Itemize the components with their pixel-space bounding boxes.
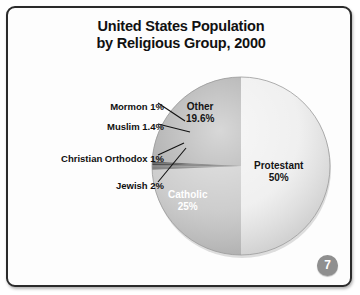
pie-label-other: Other 19.6%	[186, 101, 214, 125]
chart-title: United States Population by Religious Gr…	[8, 18, 354, 52]
pie-label-other-value: 19.6%	[186, 113, 214, 125]
pie-svg	[146, 71, 336, 261]
page-number-badge: 7	[317, 255, 338, 276]
callout-label-jewish: Jewish 2%	[60, 180, 164, 191]
pie-label-protestant-value: 50%	[254, 172, 303, 184]
pie-label-other-name: Other	[187, 101, 214, 112]
chart-title-line-1: United States Population	[98, 18, 265, 34]
callout-label-mormon: Mormon 1%	[72, 101, 164, 112]
chart-title-line-2: by Religious Group, 2000	[8, 35, 354, 52]
pie-label-protestant-name: Protestant	[254, 160, 303, 171]
callout-label-christian-orthodox: Christian Orthodox 1%	[16, 153, 164, 164]
figure-frame: United States Population by Religious Gr…	[6, 6, 352, 287]
pie-label-catholic-value: 25%	[168, 201, 207, 213]
pie-label-catholic: Catholic 25%	[168, 189, 207, 213]
callout-label-muslim: Muslim 1.4%	[52, 121, 164, 132]
pie-label-catholic-name: Catholic	[168, 189, 207, 200]
pie-chart: Other 19.6% Protestant 50% Catholic 25%	[146, 71, 336, 261]
pie-label-protestant: Protestant 50%	[254, 160, 303, 184]
